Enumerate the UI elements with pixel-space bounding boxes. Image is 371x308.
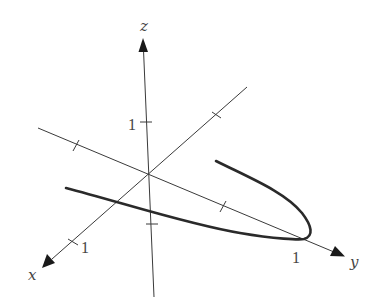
x-axis-arrowhead-icon (42, 254, 55, 268)
y-axis (38, 128, 334, 252)
3d-axes-diagram: z y x 1 1 1 (0, 0, 371, 308)
z-axis-label: z (139, 17, 148, 35)
y-tick-label: 1 (292, 249, 300, 266)
z-tick-label: 1 (128, 116, 136, 133)
z-axis-arrowhead-icon (139, 38, 149, 52)
x-axis (52, 87, 247, 259)
space-curve (66, 161, 311, 239)
x-axis-label: x (28, 266, 37, 284)
y-axis-label: y (349, 253, 359, 271)
y-tick-negative-1 (73, 140, 79, 151)
x-tick-label: 1 (81, 239, 89, 256)
